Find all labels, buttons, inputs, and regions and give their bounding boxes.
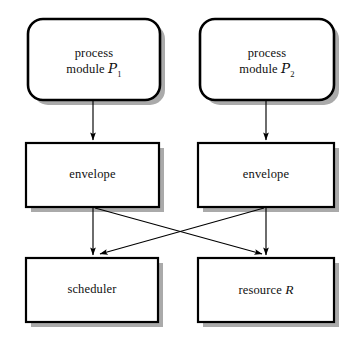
node-resource[interactable] [198, 258, 334, 322]
node-scheduler[interactable] [26, 258, 158, 322]
node-process-module-2[interactable] [200, 19, 334, 100]
node-envelope-left[interactable] [26, 143, 159, 207]
flowchart-canvas [0, 0, 353, 343]
edge-env2-scheduler [100, 208, 264, 254]
nodes [26, 19, 334, 322]
edge-env1-resource [95, 208, 262, 254]
node-process-module-1[interactable] [28, 19, 160, 100]
node-envelope-right[interactable] [198, 143, 334, 207]
